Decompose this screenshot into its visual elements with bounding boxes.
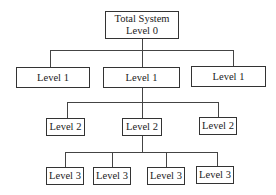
node-label: Level 1 [37, 72, 69, 84]
node-level-0: Total System Level 0 [105, 11, 179, 39]
node-level-3: Level 3 [93, 167, 131, 185]
connector [67, 102, 68, 118]
connector [50, 50, 51, 67]
connector [142, 39, 143, 67]
node-level-3: Level 3 [196, 166, 234, 184]
node-label-line1: Total System [115, 13, 170, 25]
node-label: Level 2 [126, 121, 158, 133]
connector [218, 102, 219, 117]
node-label: Level 2 [202, 120, 234, 132]
connector [142, 136, 143, 152]
node-label: Level 3 [150, 170, 182, 182]
node-level-2: Level 2 [122, 118, 162, 136]
node-level-1: Level 1 [16, 67, 90, 88]
node-level-1: Level 1 [191, 66, 266, 87]
node-label: Level 3 [199, 169, 231, 181]
node-label-line2: Level 0 [126, 25, 158, 37]
node-label: Level 3 [96, 170, 128, 182]
node-label: Level 1 [213, 71, 245, 83]
connector [112, 152, 113, 167]
node-level-2: Level 2 [46, 118, 85, 136]
connector [233, 50, 234, 66]
connector [67, 102, 219, 103]
node-label: Level 3 [49, 170, 81, 182]
node-level-1: Level 1 [103, 67, 180, 88]
connector [65, 152, 218, 153]
connector [217, 152, 218, 166]
connector [50, 50, 234, 51]
connector [166, 152, 167, 167]
node-label: Level 2 [50, 121, 82, 133]
node-label: Level 1 [126, 72, 158, 84]
node-level-3: Level 3 [46, 167, 84, 185]
connector [65, 152, 66, 167]
node-level-2: Level 2 [199, 117, 237, 135]
node-level-3: Level 3 [147, 167, 185, 185]
